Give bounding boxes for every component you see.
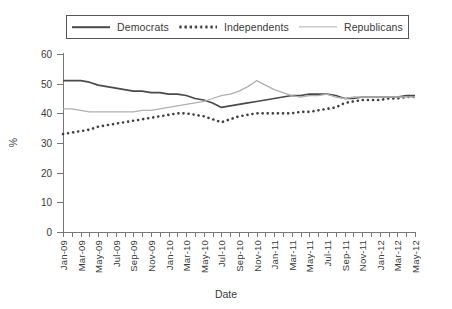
x-tick-mark (353, 232, 354, 237)
x-tick-mark (345, 232, 346, 237)
x-tick-mark (301, 232, 302, 237)
x-tick-label: Jul-09 (111, 240, 122, 267)
plot-area (63, 54, 415, 232)
x-tick-label: Mar-11 (287, 240, 298, 271)
x-tick-mark (274, 232, 275, 237)
series-lines (63, 54, 415, 232)
y-tick-label: 10 (6, 197, 52, 208)
y-tick-label: 50 (6, 78, 52, 89)
x-tick-mark (389, 232, 390, 237)
legend-swatch-icon (179, 23, 217, 32)
x-tick-mark (125, 232, 126, 237)
x-axis-title: Date (0, 288, 452, 300)
x-tick-mark (292, 232, 293, 237)
x-tick-label: Nov-10 (252, 240, 263, 272)
x-tick-label: Sep-10 (234, 240, 245, 272)
x-tick-mark (362, 232, 363, 237)
x-tick-label: Jan-11 (269, 240, 280, 270)
x-tick-mark (81, 232, 82, 237)
x-tick-mark (336, 232, 337, 237)
x-tick-label: Nov-11 (357, 240, 368, 271)
y-tick-label: 20 (6, 167, 52, 178)
x-tick-mark (265, 232, 266, 237)
x-tick-label: May-12 (410, 240, 421, 273)
x-tick-mark (257, 232, 258, 237)
x-tick-label: Jul-11 (322, 240, 333, 266)
x-tick-label: Mar-10 (181, 240, 192, 271)
x-tick-mark (397, 232, 398, 237)
x-tick-mark (204, 232, 205, 237)
x-tick-mark (89, 232, 90, 237)
x-tick-label: Jan-10 (164, 240, 175, 270)
x-tick-mark (415, 232, 416, 237)
x-tick-mark (186, 232, 187, 237)
x-tick-mark (151, 232, 152, 237)
x-tick-mark (169, 232, 170, 237)
x-tick-mark (116, 232, 117, 237)
y-tick-label: 30 (6, 138, 52, 149)
legend-label: Democrats (117, 21, 169, 33)
legend-swatch-icon (72, 23, 110, 32)
series-line-democrats (63, 81, 415, 108)
chart-legend: DemocratsIndependentsRepublicans (66, 15, 409, 39)
x-tick-label: Sep-09 (128, 240, 139, 272)
x-tick-mark (380, 232, 381, 237)
x-tick-mark (309, 232, 310, 237)
x-tick-label: May-11 (304, 240, 315, 272)
x-tick-label: Mar-09 (76, 240, 87, 271)
y-tick-label: 40 (6, 108, 52, 119)
series-line-independents (63, 97, 415, 134)
chart-screenshot: DemocratsIndependentsRepublicans % Date … (0, 0, 452, 309)
x-tick-label: Jul-10 (216, 240, 227, 267)
x-tick-mark (160, 232, 161, 237)
legend-swatch-icon (299, 23, 337, 32)
x-tick-label: Nov-09 (146, 240, 157, 272)
x-tick-label: Sep-11 (340, 240, 351, 271)
x-tick-mark (177, 232, 178, 237)
legend-label: Independents (224, 21, 289, 33)
x-tick-label: Jan-09 (58, 240, 69, 270)
x-tick-mark (107, 232, 108, 237)
x-tick-label: May-09 (93, 240, 104, 273)
legend-entry-republicans: Republicans (299, 21, 403, 33)
x-tick-mark (98, 232, 99, 237)
x-tick-mark (327, 232, 328, 237)
legend-entry-democrats: Democrats (72, 21, 169, 33)
legend-label: Republicans (344, 21, 403, 33)
y-tick-label: 60 (6, 49, 52, 60)
x-tick-label: Mar-12 (392, 240, 403, 271)
x-tick-mark (230, 232, 231, 237)
x-tick-label: May-10 (199, 240, 210, 273)
x-tick-mark (133, 232, 134, 237)
x-tick-mark (213, 232, 214, 237)
x-tick-mark (283, 232, 284, 237)
x-tick-mark (406, 232, 407, 237)
x-tick-mark (142, 232, 143, 237)
legend-entry-independents: Independents (179, 21, 289, 33)
x-tick-label: Jan-12 (375, 240, 386, 270)
x-tick-mark (371, 232, 372, 237)
x-tick-mark (248, 232, 249, 237)
x-tick-mark (72, 232, 73, 237)
x-tick-mark (239, 232, 240, 237)
x-tick-mark (63, 232, 64, 237)
y-tick-label: 0 (6, 227, 52, 238)
x-tick-mark (318, 232, 319, 237)
x-tick-mark (221, 232, 222, 237)
x-tick-mark (195, 232, 196, 237)
